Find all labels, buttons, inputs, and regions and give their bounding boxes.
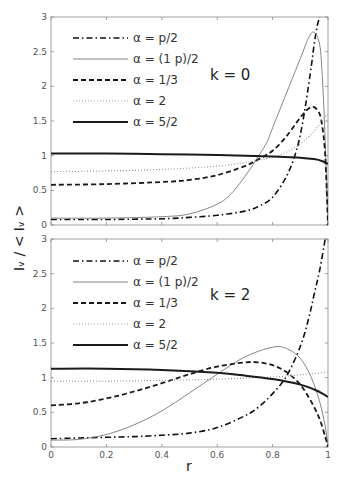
plot-panel-k2: 00.511.522.5300.20.40.60.81α = p/2α = (1… [33,234,331,460]
series-line-dashed [51,362,328,447]
x-tick-label: 0 [48,450,54,460]
y-tick-label: 3 [41,234,47,244]
legend-label: α = (1 p)/2 [133,52,199,66]
series-line-dash-dot [51,17,320,220]
x-tick-label: 1 [325,450,331,460]
x-tick-label: 0.8 [265,450,280,460]
series-line-dotted [51,372,328,381]
y-tick-label: 1.5 [33,338,47,348]
series-line-thin-solid [51,347,328,447]
y-tick-label: 2 [41,303,47,313]
y-tick-label: 0 [41,220,47,230]
x-tick-label: 0.2 [99,450,113,460]
y-tick-label: 1 [41,151,47,161]
y-tick-label: 0 [41,442,47,452]
legend-label: α = 1/3 [133,296,178,310]
y-tick-label: 3 [41,12,47,22]
legend: α = p/2α = (1 p)/2α = 1/3α = 2α = 5/2 [73,31,199,129]
series-group [51,239,328,447]
y-tick-label: 0.5 [33,185,47,195]
legend-label: α = 2 [133,94,166,108]
y-tick-label: 1 [41,373,47,383]
y-axis-label: Iᵥ / < Iᵥ > [11,205,27,271]
x-tick-label: 0.6 [210,450,225,460]
legend-label: α = p/2 [133,31,178,45]
y-tick-label: 2.5 [33,47,47,57]
legend-label: α = (1 p)/2 [133,275,199,289]
legend-label: α = 2 [133,317,166,331]
y-tick-label: 0.5 [33,407,47,417]
y-tick-label: 2.5 [33,269,47,279]
series-line-dashed [51,107,328,225]
x-tick-label: 0.4 [155,450,170,460]
series-line-thick-solid [51,154,328,164]
series-line-dash-dot [51,239,325,439]
y-tick-label: 2 [41,81,47,91]
axes-frame [51,239,328,447]
x-axis-label: r [186,458,192,474]
panel-label: k = 2 [210,286,250,304]
panel-label: k = 0 [210,66,250,84]
legend-label: α = 5/2 [133,338,178,352]
legend-label: α = 1/3 [133,73,178,87]
figure: 00.511.522.53α = p/2α = (1 p)/2α = 1/3α … [0,0,343,485]
legend: α = p/2α = (1 p)/2α = 1/3α = 2α = 5/2 [73,254,199,352]
plot-panel-k0: 00.511.522.53α = p/2α = (1 p)/2α = 1/3α … [33,12,328,230]
legend-label: α = 5/2 [133,115,178,129]
legend-label: α = p/2 [133,254,178,268]
y-tick-label: 1.5 [33,116,47,126]
